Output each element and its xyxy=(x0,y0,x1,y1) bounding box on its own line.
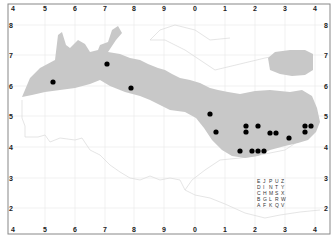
svg-text:7: 7 xyxy=(9,52,13,59)
svg-text:8: 8 xyxy=(9,22,13,29)
right-axis-ticks: 8 7 6 5 4 3 2 xyxy=(324,22,328,212)
svg-text:V: V xyxy=(281,202,285,208)
svg-text:5: 5 xyxy=(9,113,13,120)
svg-text:8: 8 xyxy=(132,5,136,12)
svg-text:4: 4 xyxy=(11,5,15,12)
svg-text:7: 7 xyxy=(103,226,107,233)
occurrence-dot xyxy=(308,123,313,128)
svg-text:4: 4 xyxy=(313,5,317,12)
occurrence-dot xyxy=(207,111,212,116)
letter-grid-legend: E J P U Z D I N T Y C H M S X B G L R W … xyxy=(257,178,286,208)
svg-text:3: 3 xyxy=(324,175,328,182)
occurrence-dot xyxy=(261,148,266,153)
occurrence-dot xyxy=(286,135,291,140)
svg-text:4: 4 xyxy=(9,144,13,151)
distribution-map: 4 5 6 7 8 9 0 1 2 3 4 4 5 6 7 8 9 0 1 2 … xyxy=(0,0,333,239)
svg-text:2: 2 xyxy=(9,205,13,212)
occurrence-dot xyxy=(273,130,278,135)
svg-text:4: 4 xyxy=(324,144,328,151)
occurrence-dot xyxy=(104,61,109,66)
svg-text:1: 1 xyxy=(223,5,227,12)
svg-text:8: 8 xyxy=(132,226,136,233)
occurrence-dot xyxy=(302,123,307,128)
occurrence-dot xyxy=(249,148,254,153)
top-axis-ticks: 4 5 6 7 8 9 0 1 2 3 4 xyxy=(11,5,317,12)
svg-text:A: A xyxy=(257,202,261,208)
left-axis-ticks: 8 7 6 5 4 3 2 xyxy=(9,22,13,212)
svg-text:2: 2 xyxy=(253,5,257,12)
svg-text:5: 5 xyxy=(43,5,47,12)
svg-text:6: 6 xyxy=(9,83,13,90)
svg-text:3: 3 xyxy=(283,5,287,12)
svg-text:6: 6 xyxy=(73,5,77,12)
occurrence-dot xyxy=(128,85,133,90)
occurrence-dot xyxy=(50,79,55,84)
occurrence-dot xyxy=(243,129,248,134)
distribution-region-east xyxy=(268,50,313,76)
occurrence-dot xyxy=(243,123,248,128)
svg-text:9: 9 xyxy=(162,226,166,233)
svg-text:0: 0 xyxy=(193,226,197,233)
occurrence-dot xyxy=(302,129,307,134)
svg-text:8: 8 xyxy=(324,22,328,29)
svg-text:2: 2 xyxy=(253,226,257,233)
svg-text:9: 9 xyxy=(162,5,166,12)
svg-text:1: 1 xyxy=(223,226,227,233)
svg-text:5: 5 xyxy=(324,113,328,120)
svg-text:Q: Q xyxy=(275,202,279,208)
svg-text:7: 7 xyxy=(103,5,107,12)
svg-text:6: 6 xyxy=(324,83,328,90)
svg-text:4: 4 xyxy=(11,226,15,233)
svg-text:3: 3 xyxy=(9,175,13,182)
occurrence-dot xyxy=(237,148,242,153)
svg-text:3: 3 xyxy=(283,226,287,233)
occurrence-dot xyxy=(255,148,260,153)
occurrence-dot xyxy=(267,130,272,135)
svg-text:6: 6 xyxy=(73,226,77,233)
occurrence-dot xyxy=(213,129,218,134)
svg-text:0: 0 xyxy=(193,5,197,12)
svg-text:F: F xyxy=(263,202,266,208)
svg-text:2: 2 xyxy=(324,205,328,212)
bottom-axis-ticks: 4 5 6 7 8 9 0 1 2 3 4 xyxy=(11,226,317,233)
svg-text:7: 7 xyxy=(324,52,328,59)
svg-text:K: K xyxy=(269,202,273,208)
occurrence-dot xyxy=(255,123,260,128)
svg-text:5: 5 xyxy=(43,226,47,233)
svg-text:4: 4 xyxy=(313,226,317,233)
distribution-region xyxy=(22,26,320,158)
